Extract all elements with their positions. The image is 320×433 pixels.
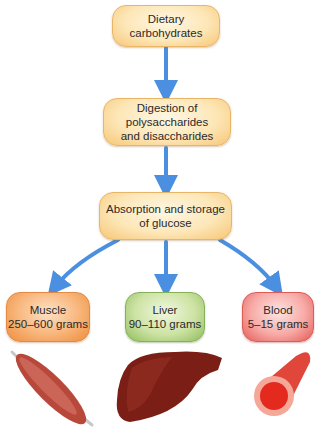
- node-dietary-carbohydrates: Dietary carbohydrates: [112, 5, 220, 47]
- node-label-line-2: 90–110 grams: [129, 317, 202, 331]
- node-digestion: Digestion of polysaccharides and disacch…: [103, 98, 231, 146]
- node-label-line-1: Digestion of polysaccharides: [104, 101, 230, 129]
- node-liver: Liver 90–110 grams: [125, 292, 205, 342]
- node-label-line-2: 5–15 grams: [248, 317, 309, 331]
- node-label-line-2: 250–600 grams: [8, 317, 88, 331]
- node-muscle: Muscle 250–600 grams: [6, 292, 90, 342]
- node-blood: Blood 5–15 grams: [242, 292, 314, 342]
- node-label-line-2: of glucose: [106, 216, 225, 230]
- node-label-line-2: and disaccharides: [104, 129, 230, 143]
- node-label-line-1: Liver: [129, 303, 202, 317]
- node-label-line-1: Blood: [248, 303, 309, 317]
- node-label-line-1: Absorption and storage: [106, 202, 225, 216]
- blood-vessel-illustration: [254, 352, 310, 416]
- muscle-illustration: [8, 346, 94, 432]
- node-absorption: Absorption and storage of glucose: [99, 192, 232, 240]
- node-label-line-1: Muscle: [8, 303, 88, 317]
- arrow-absorption-to-blood: [220, 240, 276, 287]
- liver-illustration: [117, 352, 222, 422]
- node-label: Dietary carbohydrates: [113, 12, 219, 40]
- arrow-absorption-to-muscle: [55, 240, 118, 287]
